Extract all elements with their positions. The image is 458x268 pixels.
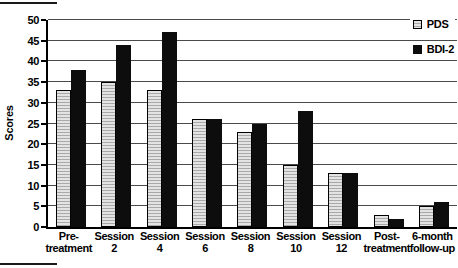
- bar-bdi-2-session-4: [162, 32, 177, 227]
- bar-bdi-2-session-6: [207, 119, 222, 227]
- legend-item-pds: PDS: [410, 16, 455, 32]
- legend: PDSBDI-2: [410, 16, 455, 66]
- bar-bdi-2-pre-treatment: [71, 70, 86, 227]
- bar-pds-session-6: [192, 119, 207, 227]
- y-tick-label-15: 15: [5, 159, 39, 171]
- legend-label: BDI-2: [427, 43, 454, 55]
- page-crop-mark-top: [0, 2, 57, 4]
- bar-bdi-2-session-12: [343, 173, 358, 227]
- y-tick-mark-50: [41, 19, 46, 21]
- bar-group-session-4: [139, 20, 184, 227]
- page-crop-mark-bottom: [0, 263, 57, 265]
- plot-area: [46, 20, 457, 229]
- y-tick-label-50: 50: [5, 14, 39, 26]
- y-tick-mark-40: [41, 60, 46, 62]
- y-tick-mark-45: [41, 40, 46, 42]
- y-tick-label-0: 0: [5, 221, 39, 233]
- y-tick-label-35: 35: [5, 76, 39, 88]
- bar-group-session-10: [275, 20, 320, 227]
- bar-bdi-2-session-10: [298, 111, 313, 227]
- bar-bdi-2-post-treatment: [389, 219, 404, 227]
- legend-item-bdi-2: BDI-2: [410, 41, 455, 57]
- y-tick-mark-0: [41, 226, 46, 228]
- y-tick-mark-30: [41, 102, 46, 104]
- legend-label: PDS: [427, 18, 449, 30]
- bar-group-session-2: [93, 20, 138, 227]
- y-tick-label-25: 25: [5, 118, 39, 130]
- bar-group-session-6: [184, 20, 229, 227]
- bar-bdi-2-6-month-follow-up: [434, 202, 449, 227]
- y-tick-label-10: 10: [5, 180, 39, 192]
- bar-group-post-treatment: [366, 20, 411, 227]
- bar-pds-session-10: [283, 165, 298, 227]
- y-tick-mark-15: [41, 164, 46, 166]
- bar-group-session-12: [321, 20, 366, 227]
- bar-pds-session-12: [328, 173, 343, 227]
- x-axis-labels: Pre- treatmentSession 2Session 4Session …: [46, 231, 455, 263]
- bar-pds-session-8: [237, 132, 252, 227]
- bar-pds-session-2: [101, 82, 116, 227]
- bar-pds-post-treatment: [374, 215, 389, 227]
- y-tick-mark-5: [41, 205, 46, 207]
- y-tick-label-45: 45: [5, 35, 39, 47]
- x-tick-label-6-month-follow-up: 6-month follow-up: [405, 231, 458, 254]
- y-tick-mark-20: [41, 143, 46, 145]
- black-square-swatch: [413, 45, 422, 54]
- y-tick-label-20: 20: [5, 138, 39, 150]
- y-tick-label-40: 40: [5, 55, 39, 67]
- y-tick-label-5: 5: [5, 200, 39, 212]
- y-tick-mark-10: [41, 185, 46, 187]
- bar-pds-pre-treatment: [56, 90, 71, 227]
- bar-group-session-8: [230, 20, 275, 227]
- bar-group-pre-treatment: [48, 20, 93, 227]
- bar-bdi-2-session-2: [116, 45, 131, 227]
- bar-pds-session-4: [147, 90, 162, 227]
- bar-chart-figure: Scores Pre- treatmentSession 2Session 4S…: [0, 0, 458, 268]
- y-tick-mark-35: [41, 81, 46, 83]
- hatched-square-swatch: [413, 20, 422, 29]
- bar-pds-6-month-follow-up: [419, 206, 434, 227]
- y-tick-label-30: 30: [5, 97, 39, 109]
- y-tick-mark-25: [41, 123, 46, 125]
- bar-bdi-2-session-8: [252, 124, 267, 228]
